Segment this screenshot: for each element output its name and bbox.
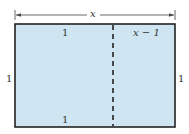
diagram-canvas — [0, 0, 189, 134]
rectangle — [15, 24, 175, 127]
label-right-side: 1 — [178, 74, 184, 84]
label-left-square-top: 1 — [62, 28, 68, 38]
label-x-top: x — [90, 9, 96, 19]
label-left-square-bottom: 1 — [62, 115, 68, 125]
label-right-part-top: x − 1 — [133, 28, 160, 38]
label-left-side: 1 — [6, 74, 12, 84]
